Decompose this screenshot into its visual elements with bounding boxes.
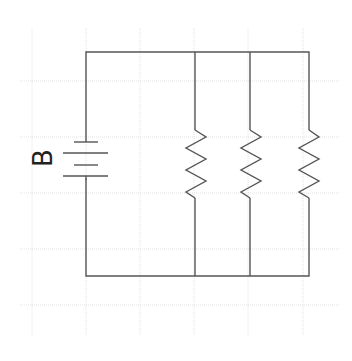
background-grid [20, 28, 340, 335]
resistor-2 [241, 130, 261, 198]
battery-label: B [28, 149, 58, 167]
resistor-1 [186, 130, 206, 198]
circuit-diagram: B [0, 0, 352, 361]
resistor-3 [299, 130, 319, 198]
